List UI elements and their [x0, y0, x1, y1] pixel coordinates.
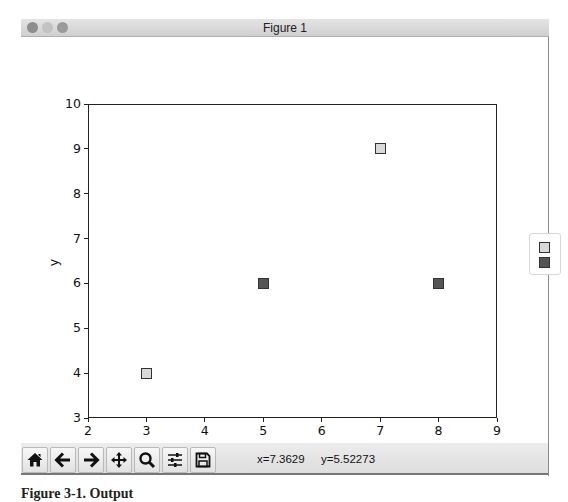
- legend-swatch-series-1: [539, 242, 550, 253]
- x-tick-label: 9: [493, 423, 501, 438]
- x-tick-mark: [321, 418, 322, 422]
- y-axis-label: y: [46, 259, 61, 266]
- title-bar[interactable]: Figure 1: [21, 19, 549, 37]
- legend-swatch-series-2: [539, 257, 550, 268]
- figure-window: Figure 1 x y 23456789345678910: [21, 19, 549, 476]
- y-tick-label: 5: [73, 320, 81, 335]
- x-tick-label: 7: [376, 423, 384, 438]
- navigation-toolbar: x=7.3629 y=5.52273: [21, 443, 548, 475]
- zoom-button[interactable]: [134, 447, 160, 473]
- move-icon: [110, 451, 128, 469]
- magnifier-icon: [138, 451, 156, 469]
- y-tick-label: 7: [73, 231, 81, 246]
- floppy-disk-icon: [194, 451, 212, 469]
- y-tick-label: 6: [73, 275, 81, 290]
- figure-canvas[interactable]: x y 23456789345678910: [21, 37, 548, 443]
- data-point-marker: [375, 143, 386, 154]
- y-tick-label: 10: [65, 96, 81, 111]
- arrow-right-icon: [82, 451, 100, 469]
- x-tick-mark: [438, 418, 439, 422]
- cursor-x-coordinate: x=7.3629: [257, 453, 305, 465]
- y-tick-mark: [84, 238, 88, 239]
- home-icon: [26, 451, 44, 469]
- x-tick-label: 4: [201, 423, 209, 438]
- x-tick-mark: [88, 418, 89, 422]
- x-tick-mark: [204, 418, 205, 422]
- save-button[interactable]: [190, 447, 216, 473]
- y-tick-mark: [84, 193, 88, 194]
- y-tick-mark: [84, 283, 88, 284]
- y-tick-mark: [84, 328, 88, 329]
- x-tick-mark: [380, 418, 381, 422]
- window-title: Figure 1: [21, 21, 549, 35]
- legend: [529, 233, 561, 275]
- x-tick-label: 6: [318, 423, 326, 438]
- data-point-marker: [141, 368, 152, 379]
- y-tick-mark: [84, 104, 88, 105]
- x-tick-mark: [263, 418, 264, 422]
- forward-button[interactable]: [78, 447, 104, 473]
- x-tick-label: 5: [259, 423, 267, 438]
- data-point-marker: [258, 278, 269, 289]
- y-tick-label: 8: [73, 186, 81, 201]
- cursor-y-coordinate: y=5.52273: [321, 453, 375, 465]
- home-button[interactable]: [22, 447, 48, 473]
- y-tick-mark: [84, 418, 88, 419]
- x-tick-label: 2: [84, 423, 92, 438]
- sliders-icon: [166, 451, 184, 469]
- y-tick-label: 4: [73, 365, 81, 380]
- arrow-left-icon: [54, 451, 72, 469]
- y-tick-mark: [84, 373, 88, 374]
- figure-caption: Figure 3-1. Output: [21, 486, 133, 502]
- configure-subplots-button[interactable]: [162, 447, 188, 473]
- x-tick-mark: [497, 418, 498, 422]
- pan-button[interactable]: [106, 447, 132, 473]
- y-tick-label: 9: [73, 141, 81, 156]
- y-tick-label: 3: [73, 410, 81, 425]
- y-tick-mark: [84, 148, 88, 149]
- x-tick-mark: [146, 418, 147, 422]
- back-button[interactable]: [50, 447, 76, 473]
- x-tick-label: 8: [435, 423, 443, 438]
- x-tick-label: 3: [142, 423, 150, 438]
- data-point-marker: [433, 278, 444, 289]
